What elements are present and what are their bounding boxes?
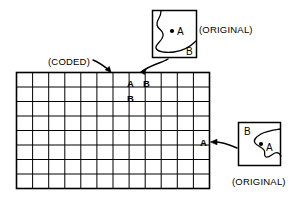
coded-pointer — [93, 60, 111, 73]
original-top-point-a-dot — [170, 29, 174, 33]
original-bottom-caption: (ORIGINAL) — [232, 177, 286, 187]
grid-cell-marker-a-r1c7: A — [127, 79, 134, 89]
bottom-inset-arrow-head — [211, 139, 218, 145]
coded-label: (CODED) — [48, 57, 90, 67]
bottom-inset-arrow — [211, 139, 238, 148]
grid-cell-marker-b-r2c7: B — [127, 94, 134, 104]
bottom-inset-arrow-line — [214, 142, 237, 148]
coded-grid — [17, 73, 210, 189]
original-bottom-point-a-label: A — [266, 143, 273, 153]
original-bottom-point-a-dot — [259, 142, 263, 146]
original-top-caption: (ORIGINAL) — [199, 25, 253, 35]
original-top-point-b-label: B — [186, 47, 193, 57]
original-top-point-a-label: A — [177, 27, 184, 37]
grid-cell-marker-b-r1c8: B — [143, 79, 150, 89]
figure-canvas: (CODED) (ORIGINAL) (ORIGINAL) A B B A A … — [0, 0, 301, 210]
original-bottom-point-b-label: B — [244, 127, 251, 137]
grid-cell-marker-a-r5c12: A — [200, 138, 207, 148]
